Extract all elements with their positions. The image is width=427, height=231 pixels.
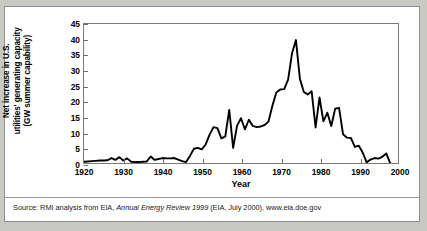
source-suffix: (EIA, July 2000), www.eia.doe.gov	[208, 203, 321, 212]
y-tick-label: 10	[71, 129, 80, 139]
x-tick-mark	[282, 159, 283, 163]
y-tick-mark	[84, 118, 88, 119]
y-tick-mark	[84, 40, 88, 41]
source-note: Source: RMI analysis from EIA, Annual En…	[13, 203, 413, 212]
x-tick-mark	[124, 159, 125, 163]
x-tick-mark	[242, 159, 243, 163]
y-axis-title: Net increase in U.S.utilities' generatin…	[2, 0, 34, 164]
x-tick-label: 1930	[114, 167, 133, 177]
source-title-italic: Annual Energy Review 1999	[116, 203, 208, 212]
y-tick-label: 30	[71, 66, 80, 76]
x-tick-mark	[163, 159, 164, 163]
x-tick-label: 1920	[75, 167, 94, 177]
x-tick-label: 1980	[312, 167, 331, 177]
y-tick-mark	[84, 24, 88, 25]
x-tick-label: 1960	[233, 167, 252, 177]
y-tick-mark	[84, 55, 88, 56]
x-axis-title: Year	[83, 179, 399, 189]
source-prefix: Source: RMI analysis from EIA,	[13, 203, 116, 212]
y-tick-label: 25	[71, 82, 80, 92]
plot-area: 0510152025303540451920193019401950196019…	[83, 23, 399, 164]
y-tick-mark	[84, 165, 88, 166]
y-tick-mark	[84, 87, 88, 88]
x-tick-label: 1950	[193, 167, 212, 177]
x-tick-mark	[203, 159, 204, 163]
x-tick-mark	[321, 159, 322, 163]
y-tick-label: 35	[71, 50, 80, 60]
y-tick-mark	[84, 71, 88, 72]
data-line-series	[84, 24, 398, 163]
y-tick-mark	[84, 134, 88, 135]
y-tick-mark	[84, 149, 88, 150]
y-tick-label: 40	[71, 35, 80, 45]
x-tick-mark	[361, 159, 362, 163]
figure-panel: Net increase in U.S.utilities' generatin…	[4, 6, 420, 222]
x-tick-label: 1970	[272, 167, 291, 177]
y-tick-label: 5	[75, 144, 80, 154]
x-tick-label: 1940	[154, 167, 173, 177]
y-tick-label: 45	[71, 19, 80, 29]
y-tick-mark	[84, 102, 88, 103]
source-divider	[5, 197, 419, 198]
chart-region: Net increase in U.S.utilities' generatin…	[5, 7, 419, 197]
y-tick-label: 15	[71, 113, 80, 123]
y-tick-label: 20	[71, 97, 80, 107]
x-tick-label: 2000	[391, 167, 410, 177]
x-tick-label: 1990	[351, 167, 370, 177]
series-polyline	[84, 40, 390, 163]
